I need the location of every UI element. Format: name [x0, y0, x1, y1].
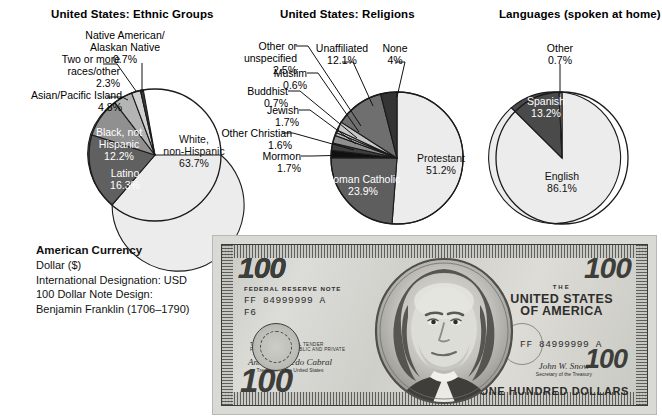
- currency-note-design-label: 100 Dollar Note Design:: [36, 287, 236, 302]
- pie-label-spanish: Spanish 13.2%: [514, 95, 578, 119]
- chart-title-religions: United States: Religions: [280, 8, 415, 20]
- pie-label-protestant: Protestant 51.2%: [403, 152, 479, 176]
- note-denomination-top-left: 100: [238, 251, 285, 285]
- pie-label-other-language: Other 0.7%: [532, 42, 588, 66]
- note-plate-code: F6: [244, 307, 257, 318]
- note-signature-secretary-name: John W. Snow: [536, 361, 592, 371]
- pie-label-unaffiliated: Unaffiliated 12.1%: [302, 42, 382, 66]
- note-denomination-top-right: 100: [584, 251, 631, 285]
- note-country-text: THE UNITED STATES OF AMERICA: [510, 281, 613, 317]
- pie-label-none: None 4%: [374, 42, 416, 66]
- note-one-hundred-dollars-text: ONE HUNDRED DOLLARS: [479, 385, 629, 397]
- benjamin-franklin-portrait: [374, 257, 514, 405]
- pie-label-asian-pacific-island: Asian/Pacific Island 4.8%: [0, 89, 122, 113]
- note-signature-secretary: John W. Snow Secretary of the Treasury: [536, 361, 592, 377]
- note-serial-number-top: FF 84999999 A: [244, 295, 326, 306]
- hundred-dollar-note-image: 100 100 100 100 FEDERAL RESERVE NOTE FF …: [213, 236, 656, 414]
- currency-heading: American Currency: [36, 244, 236, 256]
- pie-label-jewish: Jewish 1.7%: [250, 104, 299, 128]
- chart-title-ethnic-groups: United States: Ethnic Groups: [51, 8, 214, 20]
- pie-label-latino: Latino 16.3%: [95, 167, 155, 191]
- american-currency-info: American Currency Dollar ($) Internation…: [36, 244, 236, 316]
- pie-label-other-christian: Other Christian 1.6%: [210, 127, 292, 151]
- chart-title-languages: Languages (spoken at home): [499, 8, 661, 20]
- note-signature-secretary-title: Secretary of the Treasury: [536, 371, 592, 377]
- note-federal-reserve-note-text: FEDERAL RESERVE NOTE: [244, 285, 341, 292]
- currency-note-design-value: Benjamin Franklin (1706–1790): [36, 302, 236, 317]
- pie-label-two-or-more: Two or more races/other 2.3%: [20, 53, 120, 89]
- currency-international-designation: International Designation: USD: [36, 273, 236, 288]
- note-border-band-left: [222, 245, 233, 405]
- pie-label-english: English 86.1%: [530, 170, 594, 194]
- currency-name: Dollar ($): [36, 258, 236, 273]
- note-border-band-right: [636, 245, 647, 405]
- federal-reserve-seal-icon: [252, 323, 300, 371]
- pie-label-black-not-hispanic: Black, not Hispanic 12.2%: [84, 126, 154, 162]
- note-face: 100 100 100 100 FEDERAL RESERVE NOTE FF …: [221, 244, 648, 406]
- note-country-line2: OF AMERICA: [520, 304, 603, 318]
- pie-label-roman-catholic: Roman Catholic 23.9%: [317, 173, 409, 197]
- pie-label-mormon: Mormon 1.7%: [243, 150, 301, 174]
